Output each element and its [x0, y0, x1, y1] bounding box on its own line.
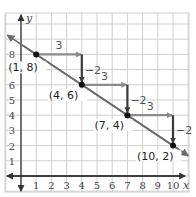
rise-label: −2 [176, 124, 192, 137]
rise-label: −2 [85, 64, 101, 77]
grid-lines [5, 13, 189, 192]
y-tick-label: 3 [9, 125, 15, 136]
x-tick-label: 6 [109, 180, 115, 191]
x-tick-label: 10 [167, 180, 180, 191]
axes [7, 15, 185, 191]
run-label: 3 [56, 39, 63, 52]
y-tick-label: 5 [9, 95, 15, 106]
x-tick-label: 4 [79, 180, 85, 191]
run-label: 3 [147, 100, 154, 113]
x-tick-label: 7 [124, 180, 130, 191]
y-tick-label: 2 [9, 141, 15, 152]
y-tick-label: 6 [9, 80, 15, 91]
data-point [170, 143, 176, 149]
x-tick-label: 5 [94, 180, 100, 191]
data-point [33, 51, 39, 57]
data-point [124, 112, 130, 118]
coordinate-plane: 12345678910x12345678y 3−23−23−2 (1, 8)(4… [0, 0, 196, 197]
y-tick-label: 8 [9, 49, 15, 60]
y-axis-label: y [25, 12, 33, 25]
x-axis-label: x [183, 179, 190, 192]
y-tick-label: 4 [9, 110, 15, 121]
x-tick-label: 3 [63, 180, 69, 191]
rise-label: −2 [130, 94, 146, 107]
point-label: (4, 6) [49, 89, 79, 102]
point-label: (1, 8) [8, 61, 38, 74]
y-tick-label: 1 [9, 156, 15, 167]
point-label: (7, 4) [94, 119, 124, 132]
x-tick-label: 9 [155, 180, 161, 191]
data-point [79, 82, 85, 88]
run-label: 3 [101, 70, 108, 83]
x-tick-label: 2 [48, 180, 54, 191]
point-label: (10, 2) [137, 150, 174, 163]
x-tick-label: 8 [139, 180, 145, 191]
x-tick-label: 1 [33, 180, 39, 191]
